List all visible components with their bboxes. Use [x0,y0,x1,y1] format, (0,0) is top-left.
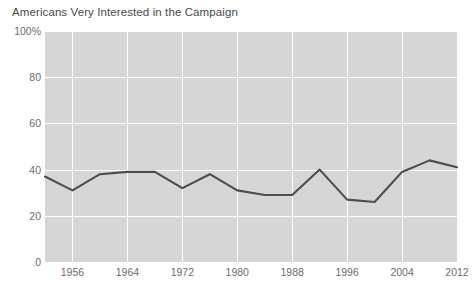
x-axis-tick-label: 2012 [445,266,468,278]
x-axis: 19561964197219801988199620042012 [0,0,473,293]
x-axis-tick-label: 1988 [281,266,304,278]
x-axis-tick-label: 1980 [226,266,249,278]
x-axis-tick-label: 1972 [171,266,194,278]
x-axis-tick-label: 2004 [390,266,413,278]
x-axis-tick-label: 1996 [335,266,358,278]
chart-page: Americans Very Interested in the Campaig… [0,0,473,293]
x-axis-tick-label: 1964 [116,266,139,278]
x-axis-tick-label: 1956 [61,266,84,278]
